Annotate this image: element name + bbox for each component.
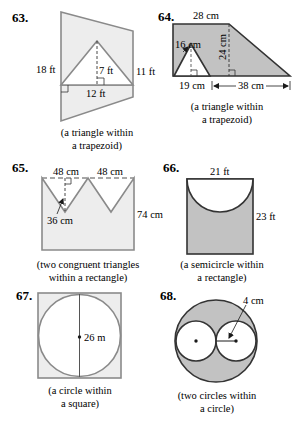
figures-canvas: 63. 18 ft 11 ft 7 ft 12 ft (a triangle w… — [0, 0, 294, 427]
problem-65: 65. 48 cm 48 cm 36 cm 74 cm (two congrue… — [12, 160, 163, 284]
caption-line-2: a circle) — [200, 403, 235, 415]
problem-number: 64. — [158, 9, 174, 24]
problem-number: 67. — [16, 288, 32, 303]
label-right-side: 74 cm — [137, 209, 163, 220]
label-triangle-side: 16 cm — [175, 39, 201, 50]
label-right-side: 23 ft — [256, 211, 276, 222]
label-left-side: 18 ft — [36, 64, 56, 75]
label-right-segment: 38 cm — [238, 80, 264, 91]
geometry-exercise-page: 63. 18 ft 11 ft 7 ft 12 ft (a triangle w… — [0, 0, 294, 427]
problem-number: 63. — [12, 10, 28, 25]
caption-line-1: (a circle within — [48, 385, 112, 397]
label-triangle-height: 7 ft — [99, 65, 113, 76]
caption-line-2: a trapezoid) — [202, 114, 252, 126]
right-angle-mark — [65, 178, 71, 184]
problem-number: 65. — [12, 160, 28, 175]
problem-67: 67. 26 m (a circle within a square) — [16, 288, 121, 410]
problem-63: 63. 18 ft 11 ft 7 ft 12 ft (a triangle w… — [12, 10, 155, 152]
caption-line-1: (two circles within — [178, 390, 257, 402]
label-diameter: 26 m — [84, 332, 105, 343]
caption-line-2: a trapezoid) — [72, 140, 122, 152]
problem-68: 68. 4 cm (two circles within a circle) — [160, 288, 264, 415]
label-radius: 4 cm — [243, 295, 264, 306]
problem-66: 66. 21 ft 23 ft (a semicircle within a r… — [163, 160, 276, 284]
label-triangle-height: 36 cm — [47, 215, 73, 226]
label-triangle-base: 12 ft — [86, 88, 106, 99]
label-right-side: 11 ft — [136, 66, 155, 77]
caption-line-1: (a semicircle within — [180, 259, 264, 271]
notched-rectangle-shape — [42, 178, 134, 250]
center-point — [194, 339, 197, 342]
caption-line-2: within a rectangle) — [49, 272, 128, 284]
problem-number: 66. — [163, 160, 179, 175]
caption-line-1: (a triangle within — [191, 101, 264, 113]
problem-64: 64. 28 cm 16 cm 24 cm 19 cm 38 cm (a tri… — [158, 9, 290, 126]
label-height: 24 cm — [217, 34, 228, 60]
label-top: 21 ft — [210, 166, 230, 177]
label-triangle-base: 19 cm — [179, 80, 205, 91]
caption-line-2: a square) — [61, 398, 100, 410]
label-top-right: 48 cm — [97, 166, 123, 177]
problem-number: 68. — [160, 288, 176, 303]
caption-line-1: (two congruent triangles — [37, 259, 140, 271]
label-top-left: 48 cm — [53, 166, 79, 177]
label-top-base: 28 cm — [193, 10, 219, 21]
caption-line-1: (a triangle within — [61, 127, 134, 139]
center-point — [78, 335, 81, 338]
caption-line-2: a rectangle) — [197, 272, 247, 284]
